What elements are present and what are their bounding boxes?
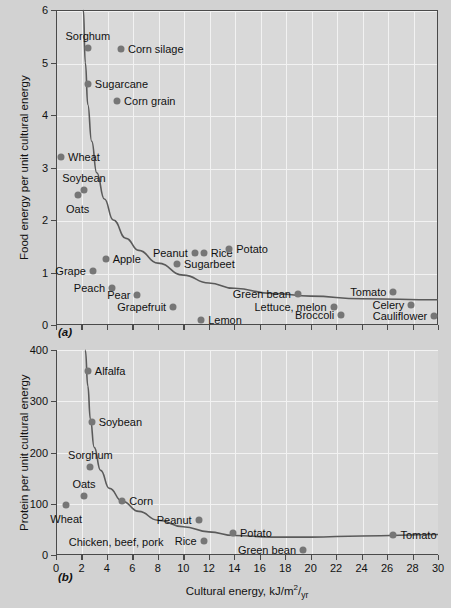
data-point-label: Sorghum — [68, 449, 113, 461]
data-point-label: Green bean — [233, 288, 291, 300]
data-point-label: Peach — [74, 282, 105, 294]
data-point[interactable] — [114, 97, 121, 104]
x-axis-unit-yr: yr — [301, 590, 308, 600]
data-point-label: Wheat — [68, 151, 100, 163]
data-point-label: Potato — [240, 527, 272, 539]
data-point-label: Soybean — [62, 172, 105, 184]
data-point-label: Grape — [55, 265, 86, 277]
x-axis-title-b: Cultural energy, kJ/m2/yr — [56, 583, 438, 600]
data-point[interactable] — [134, 292, 141, 299]
data-point[interactable] — [63, 502, 70, 509]
data-point[interactable] — [102, 256, 109, 263]
data-point[interactable] — [170, 304, 177, 311]
data-point-label: Rice — [175, 535, 197, 547]
data-point[interactable] — [294, 290, 301, 297]
data-point[interactable] — [88, 418, 95, 425]
data-point-label: Broccoli — [295, 309, 334, 321]
data-point[interactable] — [119, 498, 126, 505]
data-point-label: Grapefruit — [117, 301, 166, 313]
data-point-label: Chicken, beef, pork — [69, 536, 164, 548]
chart-panel-a: 0123456 SorghumCorn silageSugarcaneCorn … — [0, 0, 451, 340]
panel-label-b: (b) — [58, 571, 73, 583]
data-point-label: Green bean — [238, 544, 296, 556]
data-point[interactable] — [81, 187, 88, 194]
data-point-label: Oats — [72, 478, 95, 490]
data-point-label: Sugarbeet — [184, 258, 235, 270]
data-point[interactable] — [431, 313, 438, 320]
data-point[interactable] — [74, 191, 81, 198]
data-point-label: Lemon — [208, 314, 242, 326]
panel-label-a: (a) — [58, 326, 72, 338]
data-point-label: Apple — [113, 253, 141, 265]
y-axis-title-b: Protein per unit cultural energy — [18, 374, 30, 531]
y-axis-title-a: Food energy per unit cultural energy — [18, 75, 30, 260]
x-axis-title-text: Cultural energy, kJ/m — [186, 585, 294, 597]
data-point[interactable] — [300, 546, 307, 553]
data-point-label: Corn — [129, 495, 153, 507]
data-point-label: Corn grain — [124, 95, 175, 107]
data-point[interactable] — [173, 260, 180, 267]
data-point[interactable] — [200, 250, 207, 257]
data-point[interactable] — [338, 311, 345, 318]
data-point[interactable] — [84, 44, 91, 51]
data-point-label: Potato — [236, 243, 268, 255]
data-point[interactable] — [200, 537, 207, 544]
data-point[interactable] — [58, 154, 65, 161]
data-point-label: Corn silage — [128, 43, 184, 55]
data-point[interactable] — [390, 531, 397, 538]
data-point[interactable] — [226, 245, 233, 252]
data-point[interactable] — [195, 517, 202, 524]
data-point[interactable] — [81, 492, 88, 499]
data-point[interactable] — [390, 289, 397, 296]
data-point-label: Tomato — [350, 286, 386, 298]
data-point[interactable] — [117, 46, 124, 53]
data-point[interactable] — [191, 250, 198, 257]
data-point[interactable] — [84, 367, 91, 374]
chart-panel-b: 0246810121416182022242628300100200300400… — [0, 340, 451, 608]
data-point-label: Peanut — [153, 247, 188, 259]
data-point-label: Wheat — [50, 513, 82, 525]
figure-container: 0123456 SorghumCorn silageSugarcaneCorn … — [0, 0, 451, 608]
data-point[interactable] — [408, 302, 415, 309]
data-point-label: Sorghum — [66, 30, 111, 42]
data-point-label: Soybean — [99, 416, 142, 428]
data-point[interactable] — [89, 268, 96, 275]
data-point[interactable] — [229, 529, 236, 536]
data-point[interactable] — [87, 463, 94, 470]
data-point[interactable] — [84, 80, 91, 87]
data-point-label: Oats — [66, 203, 89, 215]
trend-curve-b — [0, 340, 451, 608]
data-point-label: Alfalfa — [95, 365, 126, 377]
data-point-label: Tomato — [400, 529, 436, 541]
data-point-label: Peanut — [157, 514, 192, 526]
data-point-label: Cauliflower — [373, 310, 427, 322]
data-point-label: Pear — [107, 289, 130, 301]
data-point-label: Sugarcane — [95, 78, 148, 90]
data-point[interactable] — [198, 316, 205, 323]
